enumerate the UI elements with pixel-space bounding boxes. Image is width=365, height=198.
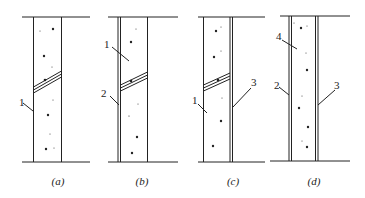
callout-b-1: 1 xyxy=(104,39,110,50)
diagram-figure: 1 1 2 1 3 4 2 3 (a) (b) (c) (d) xyxy=(0,0,365,198)
diagram-canvas xyxy=(0,0,365,198)
leader-line xyxy=(233,88,251,107)
leader-line xyxy=(318,90,335,105)
panel-c-drawing xyxy=(198,17,265,162)
callout-d-3: 3 xyxy=(334,80,340,91)
crack-hatch xyxy=(204,73,231,91)
caption-b: (b) xyxy=(136,175,149,187)
leader-line xyxy=(23,103,33,111)
callout-c-1: 1 xyxy=(192,95,198,106)
callout-a-1: 1 xyxy=(19,97,25,108)
panel-b-drawing xyxy=(108,17,178,162)
callout-b-2: 2 xyxy=(101,88,107,99)
caption-a: (a) xyxy=(52,175,65,187)
callout-d-4: 4 xyxy=(276,31,282,42)
callout-d-2: 2 xyxy=(274,80,280,91)
crack-hatch xyxy=(121,72,148,91)
caption-d: (d) xyxy=(308,175,321,187)
panel-a-drawing xyxy=(22,17,90,162)
aggregate-dots xyxy=(40,23,310,155)
leader-line xyxy=(279,87,289,95)
caption-c: (c) xyxy=(227,175,239,187)
crack-hatch xyxy=(34,71,62,93)
leader-line xyxy=(198,104,207,113)
callout-c-3: 3 xyxy=(251,77,257,88)
